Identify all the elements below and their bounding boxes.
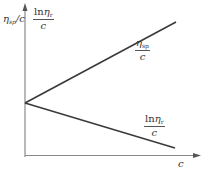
y-axis-label-sub: sp (9, 18, 16, 25)
x-axis-label: c (178, 159, 184, 169)
eta-sub-text: sp (142, 42, 149, 49)
y-axis-label: ηsp/c (3, 14, 25, 25)
series-ln-eta-r-label-denominator: c (151, 127, 157, 138)
chart-canvas (0, 0, 210, 172)
y-axis-second-label: lnηr c (33, 7, 54, 31)
series-eta-sp-over-c-line (25, 22, 176, 103)
series-eta-sp-label-denominator: c (140, 51, 146, 62)
series-eta-sp-over-c-label: ηsp c (135, 38, 150, 62)
ln-text: ln (145, 113, 155, 124)
y-axis-second-label-denominator: c (40, 20, 46, 31)
series-eta-sp-label-numerator: ηsp (135, 38, 150, 51)
eta-sub-text: r (50, 11, 53, 18)
y-axis-second-label-numerator: lnηr (33, 7, 54, 20)
series-ln-eta-r-over-c-label: lnηr c (144, 114, 165, 138)
eta-sub-text: r (161, 118, 164, 125)
y-axis-arrow-icon (23, 3, 28, 11)
x-axis-arrow-icon (193, 153, 201, 158)
series-ln-eta-r-label-numerator: lnηr (144, 114, 165, 127)
y-axis-label-suffix: /c (16, 13, 25, 24)
ln-text: ln (34, 6, 44, 17)
